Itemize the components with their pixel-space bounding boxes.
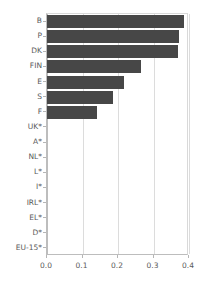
bar-row: [47, 75, 187, 90]
bar-row: [47, 211, 187, 226]
x-axis-tick-0.4: [188, 255, 189, 258]
y-axis-label-FIN: FIN: [0, 61, 42, 70]
y-axis-label-B: B: [0, 16, 42, 25]
x-axis-ticks: [46, 255, 188, 259]
plot-area: [46, 13, 188, 255]
y-axis-label-IRL*: IRL*: [0, 198, 42, 207]
y-axis-label-I*: I*: [0, 182, 42, 191]
y-axis-label-F: F: [0, 107, 42, 116]
y-axis-label-A*: A*: [0, 137, 42, 146]
y-axis-label-E: E: [0, 77, 42, 86]
y-axis-label-EU-15*: EU-15*: [0, 243, 42, 252]
bar-S: [47, 91, 113, 104]
bar-E: [47, 76, 124, 89]
bar-row: [47, 14, 187, 29]
y-axis-label-EL*: EL*: [0, 213, 42, 222]
bar-row: [47, 29, 187, 44]
x-axis-label-0.0: 0.0: [40, 261, 52, 271]
y-axis-label-D*: D*: [0, 228, 42, 237]
y-axis-labels: BPDKFINESFUK*A*NL*L*I*IRL*EL*D*EU-15*: [0, 13, 42, 255]
x-axis-tick-0.1: [82, 255, 83, 258]
bar-row: [47, 120, 187, 135]
x-axis-labels: 0.00.10.20.30.4: [0, 261, 205, 275]
x-axis-tick-0.2: [117, 255, 118, 258]
y-axis-label-S: S: [0, 92, 42, 101]
x-axis-label-0.4: 0.4: [182, 261, 194, 271]
y-axis-label-NL*: NL*: [0, 152, 42, 161]
gridline-0.4: [189, 14, 190, 254]
bar-chart: BPDKFINESFUK*A*NL*L*I*IRL*EL*D*EU-15* 0.…: [0, 0, 205, 284]
x-axis-tick-0.3: [153, 255, 154, 258]
y-axis-label-DK: DK: [0, 46, 42, 55]
bar-B: [47, 15, 184, 28]
bar-row: [47, 165, 187, 180]
bar-series: [47, 14, 187, 254]
x-axis-tick-0.0: [46, 255, 47, 258]
bar-row: [47, 90, 187, 105]
y-axis-label-P: P: [0, 31, 42, 40]
y-axis-label-UK*: UK*: [0, 122, 42, 131]
bar-FIN: [47, 60, 141, 73]
bar-row: [47, 59, 187, 74]
bar-row: [47, 241, 187, 256]
bar-row: [47, 196, 187, 211]
y-axis-label-L*: L*: [0, 167, 42, 176]
x-axis-label-0.1: 0.1: [76, 261, 88, 271]
bar-row: [47, 105, 187, 120]
x-axis-label-0.2: 0.2: [111, 261, 123, 271]
bar-row: [47, 44, 187, 59]
bar-row: [47, 135, 187, 150]
bar-row: [47, 150, 187, 165]
bar-row: [47, 226, 187, 241]
bar-row: [47, 180, 187, 195]
bar-F: [47, 106, 97, 119]
bar-P: [47, 30, 179, 43]
bar-DK: [47, 45, 178, 58]
x-axis-label-0.3: 0.3: [147, 261, 159, 271]
